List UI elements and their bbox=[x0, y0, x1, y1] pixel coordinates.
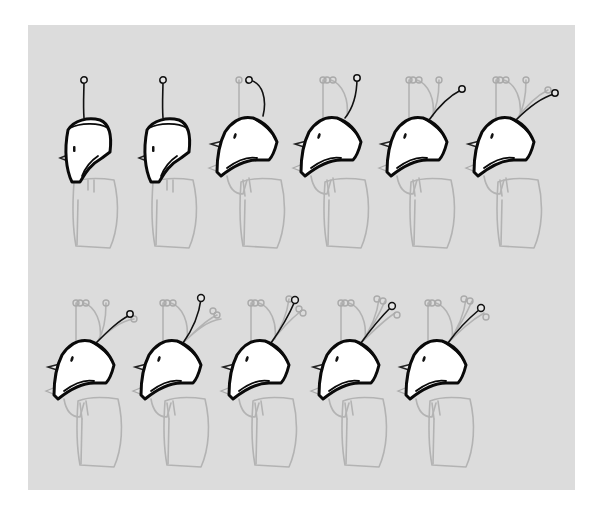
frame-10 bbox=[311, 296, 400, 467]
robot-head bbox=[379, 118, 447, 196]
frame-2 bbox=[139, 77, 196, 248]
robot-head bbox=[46, 341, 114, 419]
robot-head bbox=[139, 77, 190, 182]
frame-8 bbox=[133, 295, 221, 467]
body-ghost bbox=[77, 398, 122, 467]
animation-sheet bbox=[0, 0, 601, 517]
body-ghost bbox=[429, 398, 474, 467]
ghost-antenna bbox=[160, 300, 221, 343]
antenna bbox=[516, 90, 558, 120]
robot-head bbox=[398, 341, 466, 419]
ghost-antenna bbox=[320, 77, 347, 120]
body-ghost bbox=[152, 179, 197, 248]
antenna bbox=[183, 295, 204, 343]
frame-6 bbox=[466, 77, 558, 248]
robot-head bbox=[311, 341, 379, 419]
robot-head bbox=[60, 77, 111, 182]
body-ghost bbox=[324, 179, 369, 248]
antenna bbox=[271, 297, 298, 343]
frame-7 bbox=[46, 300, 137, 467]
body-ghost bbox=[164, 398, 209, 467]
frame-11 bbox=[398, 296, 489, 467]
ghost-antenna bbox=[73, 300, 137, 343]
ghost-antenna bbox=[236, 77, 242, 120]
robot-head bbox=[293, 118, 361, 196]
frame-3 bbox=[209, 77, 284, 248]
body-ghost bbox=[497, 179, 542, 248]
frame-5 bbox=[379, 77, 465, 248]
ghost-antenna bbox=[425, 296, 489, 343]
ghost-antenna bbox=[406, 77, 442, 120]
antenna bbox=[361, 303, 395, 343]
frame-1 bbox=[60, 77, 117, 248]
body-ghost bbox=[342, 398, 387, 467]
robot-head bbox=[221, 341, 289, 419]
frame-9 bbox=[221, 296, 306, 467]
body-ghost bbox=[240, 179, 285, 248]
body-ghost bbox=[410, 179, 455, 248]
antenna bbox=[429, 86, 465, 120]
body-ghost bbox=[252, 398, 297, 467]
frame-4 bbox=[293, 75, 368, 248]
antenna bbox=[246, 77, 265, 116]
robot-head bbox=[466, 118, 534, 196]
robot-head bbox=[133, 341, 201, 419]
robot-head bbox=[209, 118, 277, 196]
body-ghost bbox=[73, 179, 118, 248]
